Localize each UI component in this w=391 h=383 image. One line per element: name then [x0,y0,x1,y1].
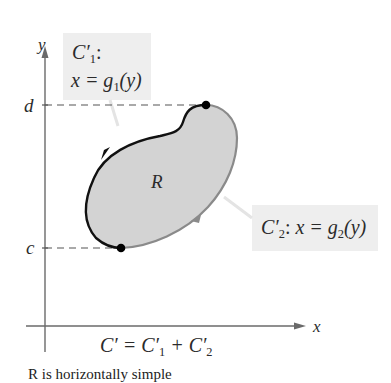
tick-label-d: d [24,96,34,115]
leader-line-c1 [110,100,118,126]
callout-c1-equation: x = g1(y) [71,70,142,94]
region-label: R [151,172,163,191]
curve-sum-label: C′ = C′1 + C′2 [100,335,213,359]
callout-c2-label: C′2: x = g2(y) [261,217,366,241]
endpoint-bottom [117,244,126,253]
y-axis-label: y [38,36,46,53]
x-axis-label: x [313,318,321,335]
tick-label-c: c [26,238,34,257]
callout-c1-title: C′1: [72,42,101,66]
endpoint-top [202,101,211,110]
figure-caption-clipped: R is horizontally simple [28,366,172,383]
leader-line-c2 [224,197,252,218]
x-axis-arrow-icon [294,323,306,330]
